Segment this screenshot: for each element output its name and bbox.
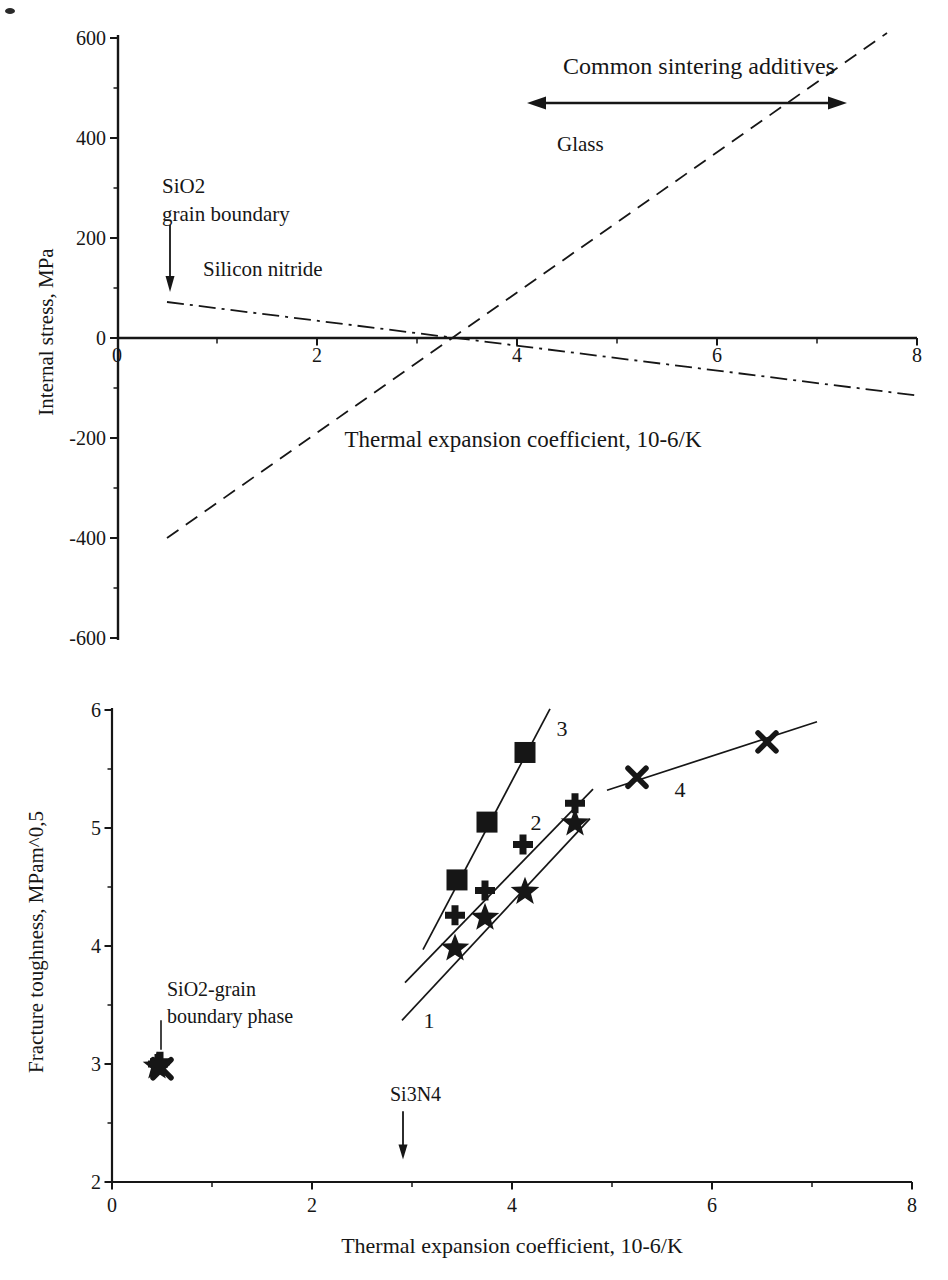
- arrow-right-head: [828, 97, 847, 110]
- y-tick-label: 0: [96, 327, 106, 349]
- scanned-figure: 6004002000-200-400-60002468 6543202468 1…: [0, 0, 948, 1280]
- y-tick-label: 6: [91, 699, 101, 721]
- square-marker: [515, 742, 536, 763]
- plus-marker: [513, 835, 533, 855]
- x-tick-label: 0: [112, 344, 122, 366]
- top-chart-lines: [167, 33, 917, 538]
- fit-line-1: [402, 819, 590, 1021]
- sio2-arrow-head: [166, 276, 175, 292]
- x-tick-label: 2: [307, 1194, 317, 1216]
- plot-canvas: 6004002000-200-400-60002468 6543202468 1…: [0, 0, 948, 1280]
- series-line-silicon-nitride: [167, 302, 917, 396]
- x-tick-label: 6: [707, 1194, 717, 1216]
- arrow-left-head: [527, 97, 546, 110]
- square-marker: [447, 869, 468, 890]
- top-chart-axes: 6004002000-200-400-60002468: [69, 27, 922, 649]
- y-tick-label: -400: [69, 527, 106, 549]
- si3n4-label: Si3N4: [390, 1083, 441, 1106]
- x-marker: [758, 733, 776, 751]
- x-tick-label: 0: [107, 1194, 117, 1216]
- top-y-axis-label: Internal stress, MPa: [34, 248, 59, 415]
- plus-marker: [475, 881, 495, 901]
- x-tick-label: 8: [912, 344, 922, 366]
- sio2-grain-phase-line2: boundary phase: [167, 1003, 293, 1030]
- y-tick-label: 2: [91, 1171, 101, 1193]
- sio2-grain-phase-line1: SiO2-grain: [167, 976, 293, 1003]
- x-tick-label: 8: [907, 1194, 917, 1216]
- y-tick-label: 3: [91, 1053, 101, 1075]
- sio2-grain-boundary-label: SiO2 grain boundary: [162, 172, 290, 228]
- star-marker: [471, 903, 500, 930]
- top-x-axis-label: Thermal expansion coefficient, 10-6/K: [344, 427, 701, 453]
- sio2-grain-phase-label: SiO2-grain boundary phase: [167, 976, 293, 1030]
- scan-speck: [5, 8, 15, 14]
- square-marker: [477, 812, 498, 833]
- common-sintering-additives-label: Common sintering additives: [563, 53, 835, 80]
- silicon-nitride-label: Silicon nitride: [203, 257, 323, 282]
- x-marker: [628, 768, 646, 786]
- sio2-grain-boundary-line1: SiO2: [162, 172, 290, 200]
- sio2-grain-boundary-line2: grain boundary: [162, 200, 290, 228]
- fit-line-2: [405, 789, 593, 983]
- x-tick-label: 6: [712, 344, 722, 366]
- bottom-chart-arrows: [161, 1020, 408, 1159]
- bottom-x-axis-label: Thermal expansion coefficient, 10-6/K: [341, 1233, 683, 1259]
- si3n4-arrow-head: [399, 1145, 408, 1160]
- star-marker: [441, 933, 470, 960]
- fit-line-number-2: 2: [531, 810, 542, 835]
- bottom-chart-axes: 6543202468: [91, 699, 917, 1216]
- bottom-y-axis-label: Fracture toughness, MPam^0,5: [24, 811, 49, 1073]
- y-tick-label: -200: [69, 427, 106, 449]
- plus-marker: [565, 793, 585, 813]
- x-tick-label: 2: [312, 344, 322, 366]
- fit-line-number-4: 4: [675, 777, 686, 802]
- x-tick-label: 4: [507, 1194, 517, 1216]
- plus-marker: [445, 905, 465, 925]
- y-tick-label: 600: [76, 27, 106, 49]
- series-line-glass: [167, 33, 887, 538]
- y-tick-label: -600: [69, 627, 106, 649]
- x-tick-label: 4: [512, 344, 522, 366]
- y-tick-label: 4: [91, 935, 101, 957]
- fit-line-number-1: 1: [424, 1008, 435, 1033]
- fit-line-number-3: 3: [557, 716, 568, 741]
- glass-label: Glass: [557, 132, 604, 157]
- y-tick-label: 200: [76, 227, 106, 249]
- y-tick-label: 5: [91, 817, 101, 839]
- y-tick-label: 400: [76, 127, 106, 149]
